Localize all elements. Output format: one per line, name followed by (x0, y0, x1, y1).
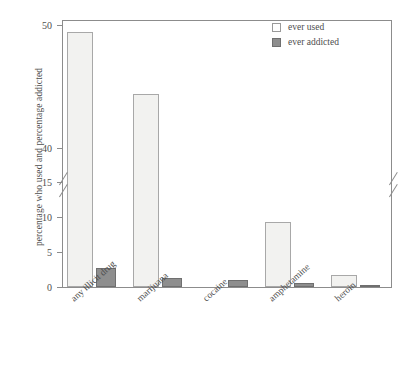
y-axis-tick-label: 50 (20, 20, 52, 31)
y-axis-tick-label: 40 (20, 143, 52, 154)
y-axis-tick-label: 10 (20, 212, 52, 223)
bar-ever-used (133, 94, 159, 287)
plot-area (62, 20, 392, 288)
legend-label-ever-used: ever used (288, 22, 324, 32)
bar-ever-addicted (228, 280, 248, 287)
legend-swatch-icon-ever-addicted (272, 38, 281, 47)
legend-label-ever-addicted: ever addicted (288, 37, 339, 47)
bar-ever-addicted (360, 285, 380, 287)
chart-figure: percentage who used and percentage addic… (0, 0, 402, 369)
chart-legend: ever used ever addicted (272, 22, 339, 52)
legend-item-ever-addicted: ever addicted (272, 37, 339, 47)
bar-ever-used (67, 32, 93, 287)
bar-ever-addicted (294, 283, 314, 287)
y-axis-tick-label: 0 (20, 282, 52, 293)
y-axis-tick-label: 15 (20, 177, 52, 188)
legend-item-ever-used: ever used (272, 22, 339, 32)
legend-swatch-icon-ever-used (272, 23, 281, 32)
axis-spine-top (62, 20, 392, 21)
axis-spine-left (62, 20, 63, 288)
axis-spine-right (391, 20, 392, 288)
y-axis-tick-label: 5 (20, 247, 52, 258)
